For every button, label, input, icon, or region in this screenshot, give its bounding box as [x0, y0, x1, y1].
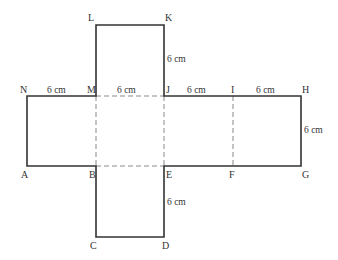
vertex-label-m: M: [87, 85, 96, 95]
vertex-label-l: L: [88, 13, 94, 23]
vertex-label-e: E: [166, 170, 172, 180]
vertex-label-d: D: [162, 241, 169, 251]
vertex-label-i: I: [231, 85, 234, 95]
measurement-nm: 6 cm: [47, 86, 66, 96]
vertex-label-f: F: [229, 170, 235, 180]
measurement-mj: 6 cm: [117, 86, 136, 96]
measurement-ji: 6 cm: [187, 86, 206, 96]
vertex-label-g: G: [302, 170, 309, 180]
vertex-label-j: J: [166, 85, 170, 95]
vertex-label-c: C: [90, 241, 97, 251]
fold-lines: [96, 96, 233, 166]
vertex-label-n: N: [20, 85, 27, 95]
vertex-label-b: B: [89, 170, 96, 180]
vertex-label-h: H: [302, 85, 309, 95]
measurement-ed: 6 cm: [167, 198, 186, 208]
vertex-label-k: K: [165, 13, 172, 23]
measurement-ih: 6 cm: [256, 86, 275, 96]
vertex-label-a: A: [21, 170, 28, 180]
measurement-kj: 6 cm: [167, 55, 186, 65]
cube-net-diagram: [0, 0, 338, 260]
measurement-hg: 6 cm: [304, 126, 323, 136]
